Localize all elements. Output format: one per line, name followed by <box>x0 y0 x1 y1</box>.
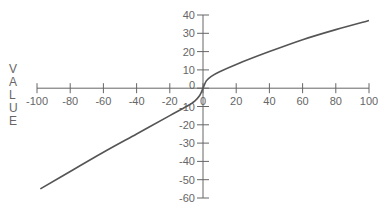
x-tick-label: 60 <box>296 95 308 107</box>
x-tick-label: 20 <box>230 95 242 107</box>
y-axis-label-letter: U <box>9 101 18 115</box>
y-tick-label: 10 <box>183 64 195 76</box>
x-tick-label: -100 <box>26 95 48 107</box>
x-tick-label: 0 <box>200 95 206 107</box>
y-tick-label: -20 <box>179 119 195 131</box>
x-tick-label: -40 <box>129 95 145 107</box>
x-tick-label: 80 <box>330 95 342 107</box>
x-tick-label: 100 <box>360 95 378 107</box>
y-tick-label: -30 <box>179 137 195 149</box>
y-tick-label: 40 <box>183 9 195 21</box>
y-tick-label: -60 <box>179 192 195 204</box>
y-tick-label: 20 <box>183 46 195 58</box>
y-axis-label-letter: A <box>9 75 17 89</box>
tick-labels: -100-80-60-40-20020406080100403020100-10… <box>26 9 378 204</box>
x-tick-label: -20 <box>162 95 178 107</box>
y-axis-label-letter: L <box>9 88 16 102</box>
y-tick-label: 30 <box>183 27 195 39</box>
line-chart: -100-80-60-40-20020406080100403020100-10… <box>0 0 384 216</box>
x-tick-label: -80 <box>62 95 78 107</box>
y-tick-label: -40 <box>179 155 195 167</box>
x-tick-label: -60 <box>95 95 111 107</box>
y-axis-label-letter: V <box>9 62 17 76</box>
y-tick-label: -50 <box>179 174 195 186</box>
y-tick-label: 0 <box>189 79 195 91</box>
y-axis-label-letter: E <box>9 114 17 128</box>
x-tick-label: 40 <box>263 95 275 107</box>
